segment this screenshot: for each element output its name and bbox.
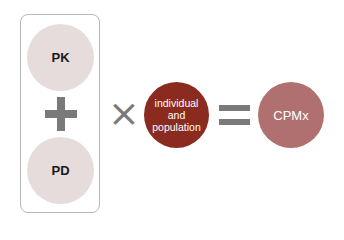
pk-circle: PK: [27, 24, 94, 91]
cpmx-circle: CPMx: [258, 82, 324, 148]
individual-population-circle: individual and population: [144, 82, 209, 148]
factor-line-3: population: [152, 121, 200, 133]
pd-circle: PD: [27, 137, 94, 204]
cpmx-label: CPMx: [273, 108, 308, 123]
equals-icon-top: [219, 105, 250, 111]
factor-line-1: individual: [155, 97, 199, 109]
factor-label: individual and population: [152, 97, 200, 133]
multiply-icon: ×: [108, 96, 138, 130]
pd-label: PD: [51, 163, 69, 178]
pk-label: PK: [51, 50, 69, 65]
plus-icon-vertical: [57, 97, 65, 131]
factor-line-2: and: [168, 109, 186, 121]
equals-icon-bottom: [219, 119, 250, 125]
